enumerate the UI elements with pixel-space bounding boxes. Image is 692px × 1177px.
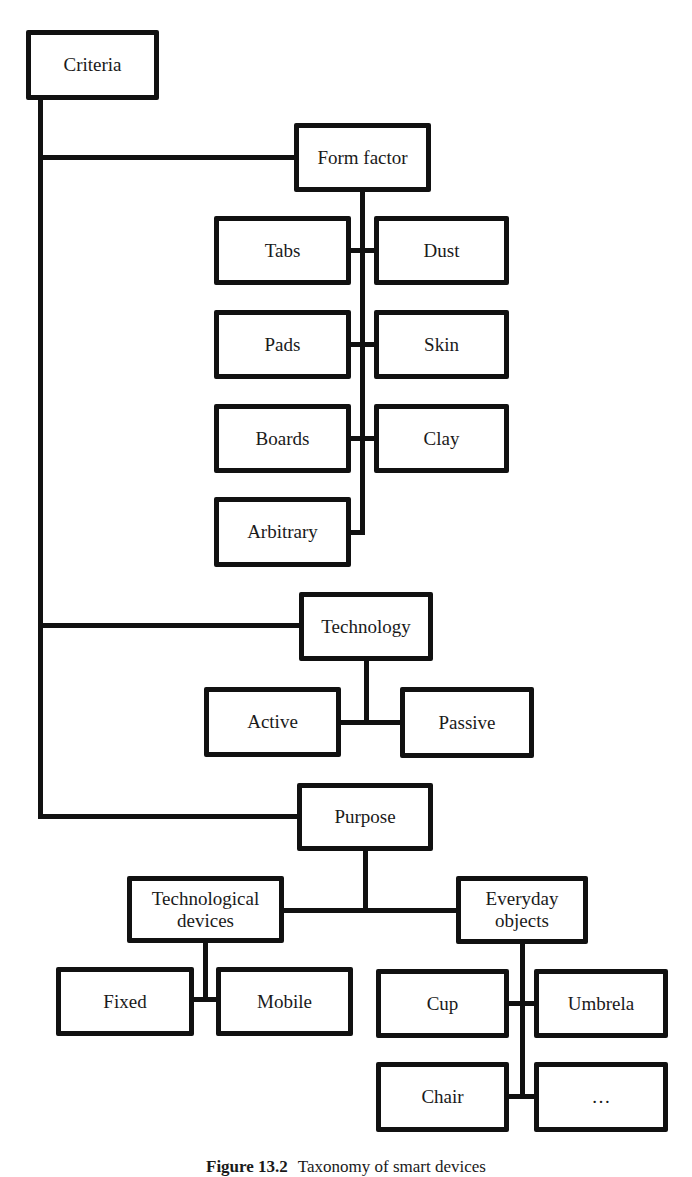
everyday-stem — [520, 941, 525, 1099]
node-tabs: Tabs — [214, 216, 351, 285]
node-label: Pads — [265, 334, 301, 356]
connector-purpose — [38, 814, 301, 819]
branch-tabs-dust — [348, 248, 377, 253]
node-boards: Boards — [214, 404, 351, 473]
trunk-line — [38, 97, 43, 819]
node-dust: Dust — [374, 216, 509, 285]
node-active: Active — [204, 687, 341, 757]
node-label: Fixed — [103, 991, 146, 1013]
node-label: Technological devices — [146, 888, 266, 932]
node-label: Technology — [321, 616, 410, 638]
node-label: Everyday objects — [477, 888, 567, 932]
purpose-stem — [363, 848, 368, 910]
node-technological-devices: Technological devices — [127, 876, 284, 943]
node-form-factor: Form factor — [294, 123, 431, 192]
node-label: Skin — [424, 334, 459, 356]
node-label: … — [592, 1086, 611, 1108]
node-clay: Clay — [374, 404, 509, 473]
figure-number: Figure 13.2 — [206, 1157, 288, 1176]
node-cup: Cup — [376, 969, 509, 1038]
node-label: Chair — [421, 1086, 463, 1108]
node-label: Active — [247, 711, 298, 733]
node-technology: Technology — [299, 592, 433, 661]
branch-pads-skin — [348, 342, 377, 347]
node-umbrela: Umbrela — [534, 969, 668, 1038]
node-criteria: Criteria — [26, 30, 159, 100]
technology-stem — [364, 658, 369, 725]
node-label: Boards — [256, 428, 310, 450]
figure-caption: Figure 13.2Taxonomy of smart devices — [0, 1157, 692, 1177]
branch-purpose-children — [281, 908, 460, 913]
branch-boards-clay — [348, 436, 377, 441]
node-purpose: Purpose — [297, 783, 433, 851]
node-label: Clay — [424, 428, 460, 450]
node-more: … — [534, 1062, 668, 1132]
node-label: Form factor — [317, 147, 407, 169]
node-fixed: Fixed — [56, 967, 194, 1036]
connector-technology — [38, 623, 303, 628]
branch-active-passive — [338, 720, 403, 725]
form-factor-stem — [360, 189, 365, 535]
node-label: Cup — [427, 993, 459, 1015]
node-chair: Chair — [376, 1062, 509, 1132]
tech-devices-stem — [203, 940, 208, 1002]
figure-title: Taxonomy of smart devices — [298, 1157, 486, 1176]
node-pads: Pads — [214, 310, 351, 379]
node-label: Mobile — [257, 991, 312, 1013]
node-label: Criteria — [63, 54, 121, 76]
node-label: Umbrela — [568, 993, 634, 1015]
node-label: Arbitrary — [247, 521, 318, 543]
node-label: Tabs — [265, 240, 301, 262]
node-label: Purpose — [334, 806, 395, 828]
connector-form-factor — [38, 155, 298, 160]
node-label: Passive — [439, 712, 496, 734]
node-everyday-objects: Everyday objects — [456, 876, 588, 944]
node-passive: Passive — [400, 687, 534, 758]
node-skin: Skin — [374, 310, 509, 379]
node-mobile: Mobile — [216, 967, 353, 1036]
node-label: Dust — [424, 240, 460, 262]
node-arbitrary: Arbitrary — [214, 497, 351, 567]
